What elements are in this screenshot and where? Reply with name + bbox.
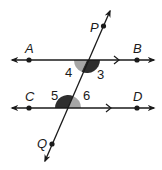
label-p: P	[90, 20, 99, 35]
label-q: Q	[37, 136, 47, 151]
angle-label-4: 4	[65, 65, 72, 80]
transversal-pq	[45, 11, 110, 161]
point-q	[49, 141, 54, 146]
point-d	[134, 105, 139, 110]
angle-label-5: 5	[51, 88, 58, 103]
point-p	[101, 23, 106, 28]
angle-label-3: 3	[97, 67, 104, 82]
geometry-diagram: A B C D P Q 4 3 5 6	[0, 0, 162, 170]
point-c	[26, 105, 31, 110]
point-b	[134, 57, 139, 62]
angle-label-6: 6	[83, 88, 90, 103]
label-d: D	[133, 89, 142, 104]
label-c: C	[25, 89, 35, 104]
label-a: A	[24, 41, 34, 56]
point-a	[26, 57, 31, 62]
label-b: B	[133, 41, 142, 56]
